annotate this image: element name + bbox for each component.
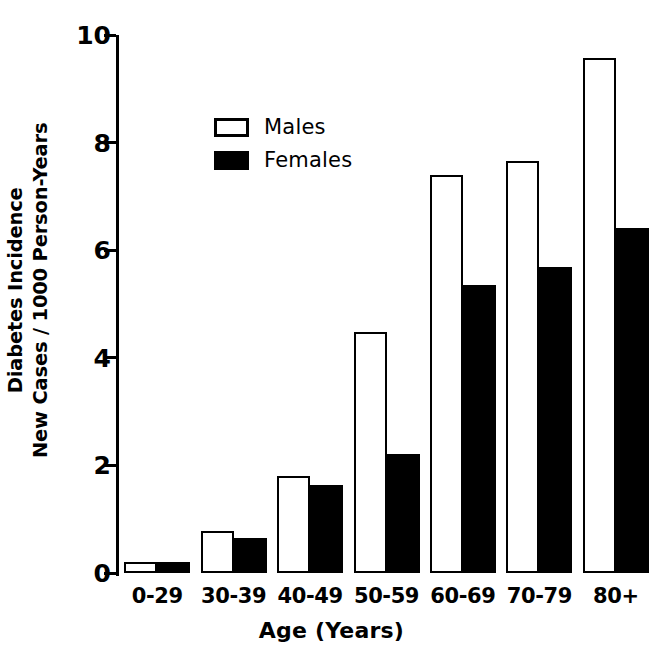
- legend-label: Females: [264, 150, 352, 171]
- bar-females-40-49: [310, 485, 343, 573]
- x-axis-title: Age (Years): [0, 618, 663, 643]
- bar-males-80+: [583, 58, 616, 573]
- x-tick-label: 70-79: [507, 584, 572, 608]
- plot-area: 0246810: [116, 35, 654, 573]
- y-axis-title-line1: Diabetes Incidence: [4, 122, 29, 457]
- y-tick-label: 6: [94, 238, 111, 263]
- x-tick-label: 30-39: [201, 584, 266, 608]
- y-tick-label: 8: [94, 130, 111, 155]
- bar-group: [124, 35, 190, 573]
- bar-males-0-29: [124, 562, 157, 573]
- y-tick-label: 2: [94, 453, 111, 478]
- legend-label: Males: [264, 117, 326, 138]
- x-tick-label: 0-29: [132, 584, 183, 608]
- y-tick-label: 0: [94, 561, 111, 586]
- bar-females-0-29: [157, 562, 190, 573]
- bar-group: [583, 35, 649, 573]
- bar-females-50-59: [387, 454, 420, 573]
- x-tick-label: 40-49: [277, 584, 342, 608]
- open-rect-icon: [214, 118, 249, 137]
- legend-entry: Females: [214, 146, 352, 174]
- x-tick-label: 80+: [593, 584, 639, 608]
- legend-entry: Males: [214, 113, 352, 141]
- y-axis-title: Diabetes Incidence New Cases / 1000 Pers…: [0, 0, 58, 580]
- bar-group: [506, 35, 572, 573]
- filled-rect-icon: [214, 151, 249, 170]
- bar-females-80+: [616, 228, 649, 573]
- x-axis-origin-corner: [116, 573, 119, 576]
- bar-group: [430, 35, 496, 573]
- x-tick-label: 50-59: [354, 584, 419, 608]
- bar-females-30-39: [234, 538, 267, 573]
- bar-group: [354, 35, 420, 573]
- bar-males-70-79: [506, 161, 539, 573]
- bar-males-60-69: [430, 175, 463, 573]
- diabetes-incidence-bar-chart: Diabetes Incidence New Cases / 1000 Pers…: [0, 0, 663, 663]
- y-tick-label: 10: [76, 23, 111, 48]
- bar-males-30-39: [201, 531, 234, 573]
- y-axis-title-line2: New Cases / 1000 Person-Years: [29, 122, 54, 457]
- y-tick-label: 4: [94, 345, 111, 370]
- legend: MalesFemales: [214, 113, 352, 179]
- bar-females-60-69: [463, 285, 496, 573]
- bar-males-40-49: [277, 476, 310, 573]
- bars-container: [119, 35, 654, 573]
- bar-females-70-79: [539, 267, 572, 573]
- bar-males-50-59: [354, 332, 387, 573]
- x-tick-label: 60-69: [430, 584, 495, 608]
